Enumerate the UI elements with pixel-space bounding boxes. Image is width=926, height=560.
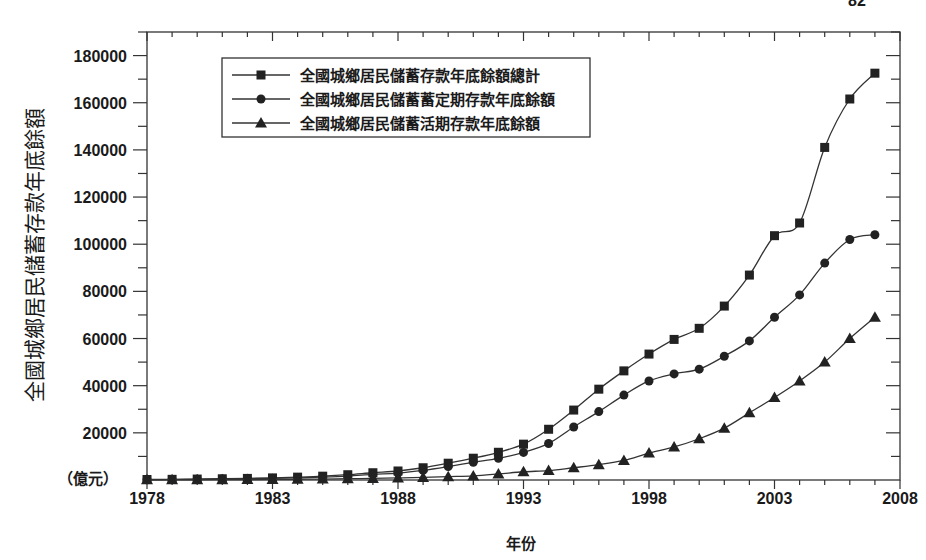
y-tick-label: 20000	[83, 425, 128, 442]
y-tick-label: 60000	[83, 331, 128, 348]
series-circle	[143, 230, 880, 484]
x-tick-label: 2003	[757, 490, 793, 507]
circle-marker-icon	[594, 407, 603, 416]
line-chart: 1978198319881993199820032008200004000060…	[0, 0, 926, 560]
circle-marker-icon	[770, 313, 779, 322]
y-tick-label: 120000	[74, 189, 127, 206]
x-tick-label: 2008	[882, 490, 918, 507]
y-tick-label: 80000	[83, 283, 128, 300]
x-tick-label: 1988	[380, 490, 416, 507]
circle-marker-icon	[494, 454, 503, 463]
square-marker-icon	[695, 324, 704, 333]
legend: 全國城鄉居民儲蓄存款年底餘額總計全國城鄉居民儲蓄蓄定期存款年底餘額全國城鄉居民儲…	[222, 58, 590, 137]
square-marker-icon	[594, 385, 603, 394]
legend-label: 全國城鄉居民儲蓄存款年底餘額總計	[299, 67, 540, 85]
square-marker-icon	[845, 94, 854, 103]
square-marker-icon	[670, 335, 679, 344]
y-tick-label: 180000	[74, 48, 127, 65]
series-triangle	[141, 311, 881, 484]
square-marker-icon	[820, 143, 829, 152]
circle-marker-icon	[870, 230, 879, 239]
y-tick-label: 140000	[74, 142, 127, 159]
circle-marker-icon	[720, 352, 729, 361]
triangle-marker-icon	[693, 433, 705, 444]
x-tick-label: 1983	[255, 490, 291, 507]
square-marker-icon	[544, 425, 553, 434]
y-tick-label: 160000	[74, 95, 127, 112]
circle-marker-icon	[469, 458, 478, 467]
circle-marker-icon	[444, 462, 453, 471]
square-marker-icon	[795, 218, 804, 227]
square-marker-icon	[770, 231, 779, 240]
x-tick-label: 1993	[506, 490, 542, 507]
circle-marker-icon	[519, 448, 528, 457]
x-tick-label: 1998	[631, 490, 667, 507]
square-marker-icon	[720, 302, 729, 311]
circle-marker-icon	[745, 336, 754, 345]
circle-marker-icon	[795, 290, 804, 299]
square-marker-icon	[870, 69, 879, 78]
square-marker-icon	[569, 406, 578, 415]
triangle-marker-icon	[794, 375, 806, 386]
y-tick-label: 40000	[83, 378, 128, 395]
series-line	[147, 235, 875, 480]
circle-marker-icon	[845, 235, 854, 244]
triangle-marker-icon	[769, 391, 781, 402]
circle-marker-icon	[670, 369, 679, 378]
square-marker-icon	[519, 440, 528, 449]
circle-marker-icon	[695, 365, 704, 374]
legend-circle-icon	[257, 95, 266, 104]
circle-marker-icon	[820, 259, 829, 268]
x-axis-title: 年份	[506, 535, 537, 553]
legend-label: 全國城鄉居民儲蓄蓄定期存款年底餘額	[299, 91, 555, 109]
circle-marker-icon	[645, 376, 654, 385]
circle-marker-icon	[569, 422, 578, 431]
circle-marker-icon	[544, 439, 553, 448]
triangle-marker-icon	[743, 407, 755, 418]
circle-marker-icon	[619, 391, 628, 400]
square-marker-icon	[745, 271, 754, 280]
y-tick-label: 100000	[74, 236, 127, 253]
legend-label: 全國城鄉居民儲蓄活期存款年底餘額	[299, 115, 540, 133]
square-marker-icon	[645, 350, 654, 359]
triangle-marker-icon	[869, 311, 881, 322]
y-axis-title: 全國城鄉居民儲蓄存款年底餘額	[23, 108, 47, 402]
x-tick-label: 1978	[129, 490, 165, 507]
y-unit-label: （億元）	[58, 470, 118, 488]
square-marker-icon	[619, 366, 628, 375]
legend-square-icon	[257, 71, 266, 80]
triangle-marker-icon	[718, 422, 730, 433]
